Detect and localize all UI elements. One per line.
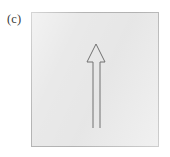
panel-label: (c): [7, 12, 21, 26]
diagram-box: [31, 12, 159, 147]
figure-panel: (c): [0, 0, 170, 157]
